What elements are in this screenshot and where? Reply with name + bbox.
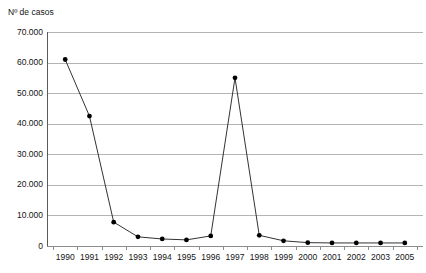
x-axis-tick-label: 1998 — [250, 252, 269, 262]
x-axis-tick-label: 1997 — [226, 252, 245, 262]
x-axis-tick-mark — [102, 246, 103, 250]
x-axis-tick-label: 2002 — [347, 252, 366, 262]
x-axis-tick-label: 2000 — [298, 252, 317, 262]
x-axis-tick-mark — [53, 246, 54, 250]
x-axis-tick-mark — [393, 246, 394, 250]
x-axis-tick-label: 1995 — [177, 252, 196, 262]
x-axis-line — [47, 246, 423, 247]
y-axis-tick-label: 70.000 — [17, 28, 43, 37]
x-axis-tick-mark — [150, 246, 151, 250]
x-axis-tick-mark — [417, 246, 418, 250]
x-axis-tick-mark — [199, 246, 200, 250]
x-axis-tick-label: 1994 — [153, 252, 172, 262]
x-axis-tick-label: 1990 — [56, 252, 75, 262]
gridline — [47, 63, 423, 64]
x-axis-tick-label: 1991 — [80, 252, 99, 262]
gridline — [47, 32, 423, 33]
x-axis-tick-label: 1993 — [128, 252, 147, 262]
x-axis-tick-label: 1992 — [104, 252, 123, 262]
y-axis-tick-label: 0 — [38, 242, 43, 251]
x-axis-tick-mark — [223, 246, 224, 250]
x-axis-tick-mark — [296, 246, 297, 250]
x-axis-tick-label: 1996 — [201, 252, 220, 262]
line-chart: Nº de casos 70.00060.00050.00040.00030.0… — [0, 0, 426, 273]
plot-area — [47, 32, 423, 246]
x-axis-tick-mark — [77, 246, 78, 250]
x-axis-tick-mark — [368, 246, 369, 250]
x-axis-tick-label: 2003 — [371, 252, 390, 262]
y-axis-tick-label: 10.000 — [17, 211, 43, 220]
y-axis-tick-label: 40.000 — [17, 119, 43, 128]
gridline — [47, 154, 423, 155]
y-axis-title: Nº de casos — [8, 7, 54, 17]
y-axis-tick-label: 20.000 — [17, 180, 43, 189]
x-axis-tick-label: 1999 — [274, 252, 293, 262]
x-axis-tick-mark — [320, 246, 321, 250]
x-axis-tick-label: 2001 — [323, 252, 342, 262]
y-axis-tick-label: 30.000 — [17, 150, 43, 159]
y-axis-tick-label: 50.000 — [17, 89, 43, 98]
gridline — [47, 93, 423, 94]
gridline — [47, 124, 423, 125]
y-axis-line — [47, 32, 48, 247]
gridline — [47, 215, 423, 216]
x-axis-tick-mark — [344, 246, 345, 250]
gridline — [47, 185, 423, 186]
x-axis-tick-mark — [174, 246, 175, 250]
y-axis-tick-label: 60.000 — [17, 58, 43, 67]
x-axis-tick-label: 2005 — [395, 252, 414, 262]
x-axis-tick-mark — [271, 246, 272, 250]
x-axis-tick-mark — [126, 246, 127, 250]
x-axis-tick-mark — [247, 246, 248, 250]
